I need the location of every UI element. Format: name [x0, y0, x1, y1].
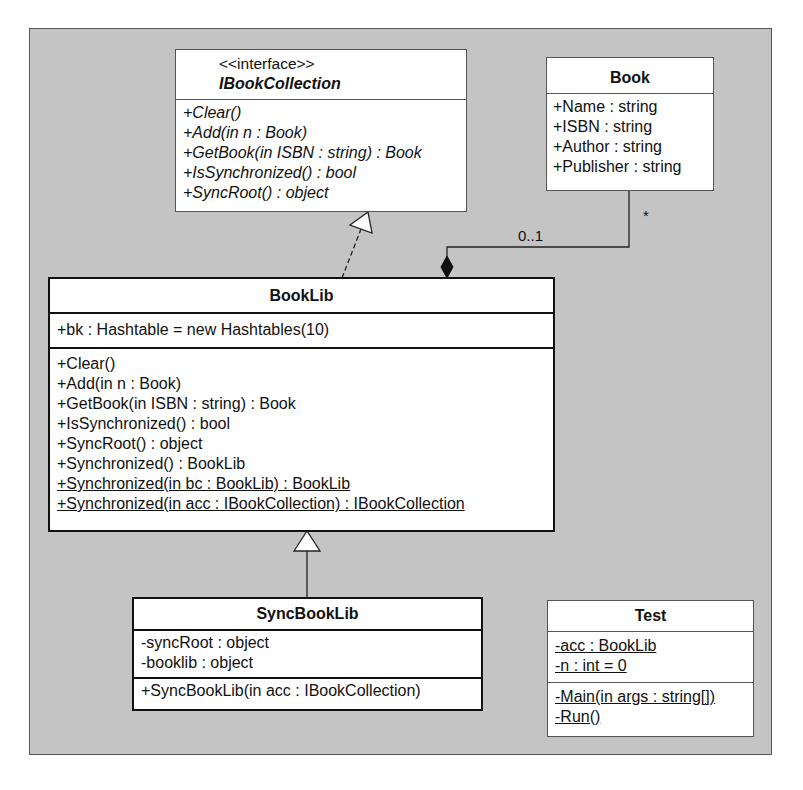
attribute: +bk : Hashtable = new Hashtables(10) [57, 320, 553, 340]
operation: +SyncBookLib(in acc : IBookCollection) [141, 681, 481, 701]
multiplicity-whole: 0..1 [518, 226, 543, 246]
static-attribute: -acc : BookLib [555, 636, 753, 656]
attribute: +ISBN : string [553, 117, 713, 137]
multiplicity-part: * [643, 206, 649, 226]
attribute: +Publisher : string [553, 157, 713, 177]
operation: +GetBook(in ISBN : string) : Book [183, 143, 466, 163]
operation: +Add(in n : Book) [183, 123, 466, 143]
operation: +SyncRoot() : object [183, 183, 466, 203]
operation: +Synchronized() : BookLib [57, 454, 553, 474]
static-attribute: -n : int = 0 [555, 656, 753, 676]
operation: +IsSynchronized() : bool [57, 414, 553, 434]
operation: +SyncRoot() : object [57, 434, 553, 454]
stereotype-label: <<interface>> [219, 54, 466, 74]
attribute: +Author : string [553, 137, 713, 157]
class-name: BookLib [50, 286, 553, 306]
operation: +Clear() [183, 103, 466, 123]
class-name: IBookCollection [219, 74, 466, 94]
attribute: -syncRoot : object [141, 633, 481, 653]
class-book[interactable]: Book +Name : string +ISBN : string +Auth… [546, 57, 714, 191]
static-operation: +Synchronized(in bc : BookLib) : BookLib [57, 474, 553, 494]
static-operation: -Main(in args : string[]) [555, 687, 753, 707]
operation: +Add(in n : Book) [57, 374, 553, 394]
operation: +IsSynchronized() : bool [183, 163, 466, 183]
class-booklib[interactable]: BookLib +bk : Hashtable = new Hashtables… [48, 277, 555, 532]
class-name: Book [547, 68, 713, 88]
static-operation: +Synchronized(in acc : IBookCollection) … [57, 494, 553, 514]
attribute: +Name : string [553, 97, 713, 117]
attribute: -booklib : object [141, 653, 481, 673]
operation: +Clear() [57, 354, 553, 374]
class-test[interactable]: Test -acc : BookLib -n : int = 0 -Main(i… [547, 600, 754, 737]
class-name: SyncBookLib [134, 604, 481, 624]
class-name: Test [548, 606, 753, 626]
operation: +GetBook(in ISBN : string) : Book [57, 394, 553, 414]
static-operation: -Run() [555, 707, 753, 727]
class-ibookcollection[interactable]: <<interface>> IBookCollection +Clear() +… [175, 49, 467, 212]
class-syncbooklib[interactable]: SyncBookLib -syncRoot : object -booklib … [132, 597, 483, 711]
